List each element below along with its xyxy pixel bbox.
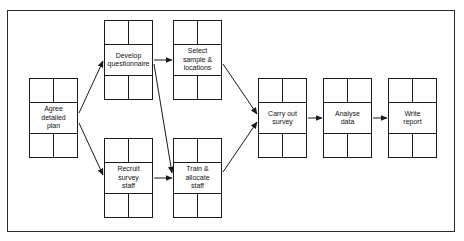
node-top-row: [30, 79, 77, 103]
node-top-row: [174, 21, 221, 45]
node-cell-top-left: [105, 139, 129, 162]
node-cell-top-left: [105, 21, 129, 44]
process-node-develop-questionnaire[interactable]: Develop questionnaire: [104, 20, 153, 100]
process-node-analyse-data[interactable]: Analyse data: [323, 78, 372, 158]
process-node-agree-detailed-plan[interactable]: Agree detailed plan: [29, 78, 78, 158]
node-top-row: [174, 139, 221, 163]
node-label: Write report: [389, 103, 436, 133]
node-cell-top-left: [174, 21, 198, 44]
node-bottom-row: [259, 133, 306, 157]
node-label: Carry out survey: [259, 103, 306, 133]
node-cell-bottom-left: [174, 194, 198, 217]
node-cell-bottom-left: [105, 76, 129, 99]
node-cell-top-right: [129, 139, 153, 162]
flowchart-canvas: Agree detailed plan Develop questionnair…: [0, 0, 464, 241]
node-cell-bottom-left: [259, 134, 283, 157]
node-cell-bottom-right: [198, 194, 222, 217]
node-bottom-row: [105, 75, 152, 99]
node-cell-bottom-left: [174, 76, 198, 99]
node-cell-bottom-right: [129, 76, 153, 99]
node-cell-bottom-left: [30, 134, 54, 157]
node-top-row: [259, 79, 306, 103]
node-cell-top-left: [30, 79, 54, 102]
node-cell-bottom-left: [324, 134, 348, 157]
node-top-row: [324, 79, 371, 103]
node-bottom-row: [324, 133, 371, 157]
node-cell-bottom-right: [129, 194, 153, 217]
node-cell-top-left: [259, 79, 283, 102]
node-cell-top-right: [348, 79, 372, 102]
process-node-carry-out-survey[interactable]: Carry out survey: [258, 78, 307, 158]
node-bottom-row: [30, 133, 77, 157]
node-cell-bottom-right: [413, 134, 437, 157]
node-cell-top-right: [129, 21, 153, 44]
node-cell-bottom-right: [54, 134, 78, 157]
node-cell-bottom-left: [389, 134, 413, 157]
node-label: Analyse data: [324, 103, 371, 133]
node-label: Train & allocate staff: [174, 163, 221, 193]
node-bottom-row: [105, 193, 152, 217]
node-cell-top-left: [324, 79, 348, 102]
node-cell-bottom-right: [283, 134, 307, 157]
node-label: Select sample & locations: [174, 45, 221, 75]
node-top-row: [105, 139, 152, 163]
process-node-select-sample[interactable]: Select sample & locations: [173, 20, 222, 100]
node-bottom-row: [174, 193, 221, 217]
node-cell-bottom-left: [105, 194, 129, 217]
node-label: Agree detailed plan: [30, 103, 77, 133]
node-top-row: [389, 79, 436, 103]
node-bottom-row: [389, 133, 436, 157]
node-cell-bottom-right: [348, 134, 372, 157]
node-bottom-row: [174, 75, 221, 99]
node-cell-top-left: [174, 139, 198, 162]
node-label: Develop questionnaire: [105, 45, 152, 75]
process-node-recruit-survey-staff[interactable]: Recruit survey staff: [104, 138, 153, 218]
node-cell-top-right: [198, 21, 222, 44]
node-cell-top-right: [413, 79, 437, 102]
node-top-row: [105, 21, 152, 45]
process-node-write-report[interactable]: Write report: [388, 78, 437, 158]
node-cell-top-left: [389, 79, 413, 102]
node-cell-bottom-right: [198, 76, 222, 99]
node-cell-top-right: [54, 79, 78, 102]
node-cell-top-right: [198, 139, 222, 162]
node-label: Recruit survey staff: [105, 163, 152, 193]
node-cell-top-right: [283, 79, 307, 102]
process-node-train-allocate-staff[interactable]: Train & allocate staff: [173, 138, 222, 218]
